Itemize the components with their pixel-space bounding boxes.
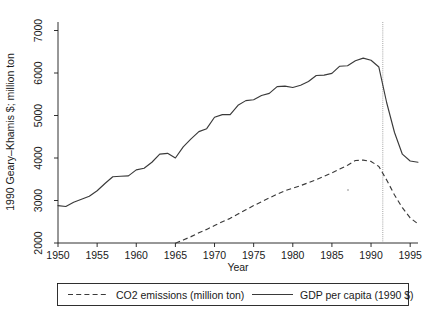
y-tick-label: 5000 (32, 104, 44, 128)
x-axis-title: Year (227, 261, 249, 273)
y-tick-label: 6000 (32, 61, 44, 85)
series-line-co2-emissions (175, 160, 418, 243)
legend-label-gdp: GDP per capita (1990 $) (300, 289, 414, 301)
x-tick-label: 1970 (203, 249, 227, 261)
chart-figure: 200030004000500060007000 1990 Geary–Kham… (0, 0, 432, 320)
y-tick-marks (54, 31, 58, 244)
x-tick-label: 1975 (242, 249, 266, 261)
chart-canvas: 200030004000500060007000 1990 Geary–Kham… (0, 0, 432, 320)
stray-speck (347, 189, 348, 190)
y-tick-label: 7000 (32, 19, 44, 43)
y-tick-label: 2000 (32, 231, 44, 255)
legend: CO2 emissions (million ton) GDP per capi… (58, 284, 414, 306)
legend-label-co2: CO2 emissions (million ton) (116, 289, 244, 301)
y-axis-title: 1990 Geary–Khamis $; million ton (4, 53, 16, 211)
y-tick-labels: 200030004000500060007000 (32, 19, 44, 255)
plot-area (58, 22, 418, 243)
x-tick-labels: 1950195519601965197019751980198519901995 (46, 249, 422, 261)
y-tick-label: 4000 (32, 146, 44, 170)
y-axis: 200030004000500060007000 1990 Geary–Kham… (4, 19, 58, 255)
x-tick-label: 1960 (125, 249, 149, 261)
y-tick-label: 3000 (32, 189, 44, 213)
x-tick-marks (58, 243, 410, 247)
x-tick-label: 1990 (359, 249, 383, 261)
x-axis: 1950195519601965197019751980198519901995… (46, 243, 422, 273)
x-tick-label: 1995 (398, 249, 422, 261)
x-tick-label: 1965 (164, 249, 188, 261)
x-tick-label: 1950 (46, 249, 70, 261)
x-tick-label: 1980 (281, 249, 305, 261)
x-tick-label: 1985 (320, 249, 344, 261)
series-line-gdp-per-capita (58, 58, 418, 206)
x-tick-label: 1955 (85, 249, 109, 261)
